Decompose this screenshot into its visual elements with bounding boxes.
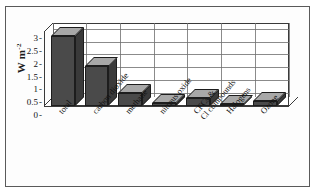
x-axis-label-line1: nitrous oxide (158, 76, 194, 116)
x-axis-label-line1: total (57, 98, 74, 116)
x-axis-category-labels: totalcarbon dioxidemethanenitrous oxideC… (0, 0, 317, 196)
x-axis-label-2: methane (124, 88, 150, 116)
x-axis-label-0: total (57, 98, 74, 116)
bar-chart: W m-2 0-0.5-1-1.5-2-2.5-3- totalcarbon d… (0, 0, 317, 196)
x-axis-label-line1: methane (124, 88, 150, 116)
figure-root: W m-2 0-0.5-1-1.5-2-2.5-3- totalcarbon d… (0, 0, 317, 196)
x-axis-label-line1: Ozone (259, 93, 281, 116)
x-axis-label-3: nitrous oxide (158, 76, 194, 116)
x-axis-label-6: Ozone (259, 93, 281, 116)
